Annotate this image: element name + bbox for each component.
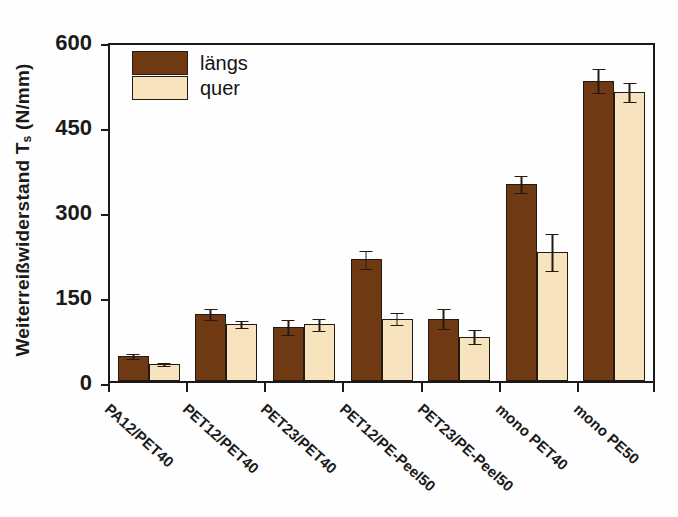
x-axis-category-label: PET12/PET40 [180, 400, 263, 477]
bar-group [498, 45, 576, 381]
bar-group [420, 45, 498, 381]
legend-label-quer: quer [200, 78, 240, 98]
bar-group [343, 45, 421, 381]
error-bar [546, 234, 559, 271]
y-axis-tick-label: 150 [34, 287, 92, 309]
error-bar [313, 319, 326, 331]
x-axis-category-label: PA12/PET40 [102, 400, 178, 470]
error-bar [127, 354, 140, 361]
y-axis-tick-label: 450 [34, 117, 92, 139]
bar-laengs[interactable] [118, 356, 149, 381]
y-axis-title-unit: (N/mm) [12, 63, 33, 135]
x-axis-category-label: mono PE50 [571, 400, 643, 467]
error-bar [282, 320, 295, 336]
legend-item-quer: quer [132, 75, 322, 100]
bar-laengs[interactable] [195, 314, 226, 381]
bar-laengs[interactable] [583, 81, 614, 381]
x-axis-category-labels: PA12/PET40PET12/PET40PET23/PET40PET12/PE… [108, 386, 655, 511]
legend-swatch-laengs-icon [132, 51, 188, 75]
error-bar [515, 176, 528, 194]
bar-quer[interactable] [614, 92, 645, 381]
error-bar [158, 363, 171, 366]
legend-swatch-quer-icon [132, 76, 188, 100]
bar-laengs[interactable] [428, 319, 459, 381]
error-bar [360, 251, 373, 270]
y-axis-tick-mark [101, 44, 110, 46]
legend-label-laengs: längs [200, 53, 248, 73]
legend-item-laengs: längs [132, 50, 322, 75]
bar-quer[interactable] [226, 324, 257, 381]
error-bar [623, 83, 636, 102]
y-axis-title-subscript: s [20, 136, 34, 143]
chart-legend: längs quer [132, 50, 322, 100]
x-axis-category-label: mono PET40 [492, 400, 571, 473]
bar-group [575, 45, 653, 381]
error-bar [235, 321, 248, 329]
y-axis-tick-label: 600 [34, 32, 92, 54]
bar-quer[interactable] [304, 324, 335, 381]
bar-quer[interactable] [149, 364, 180, 381]
y-axis-title-text: Weiterreißwiderstand Ts (N/mm) [12, 63, 34, 356]
error-bar [204, 309, 217, 321]
y-axis-tick-mark [101, 214, 110, 216]
y-axis-tick-mark [101, 129, 110, 131]
y-axis-tick-labels: 0150300450600 [34, 0, 92, 420]
error-bar [391, 313, 404, 327]
bar-laengs[interactable] [506, 184, 537, 381]
x-axis-category-label: PET23/PET40 [258, 400, 341, 477]
error-bar [592, 69, 605, 94]
error-bar [468, 330, 481, 345]
y-axis-tick-label: 300 [34, 202, 92, 224]
error-bar [437, 309, 450, 331]
bar-quer[interactable] [382, 319, 413, 381]
bar-laengs[interactable] [351, 259, 382, 381]
y-axis-tick-label: 0 [34, 372, 92, 394]
bar-quer[interactable] [537, 252, 568, 381]
bar-laengs[interactable] [273, 327, 304, 381]
y-axis-title-main: Weiterreißwiderstand T [12, 142, 33, 356]
chart-figure: Weiterreißwiderstand Ts (N/mm) 015030045… [0, 0, 678, 517]
y-axis-tick-mark [101, 299, 110, 301]
bar-quer[interactable] [459, 337, 490, 381]
